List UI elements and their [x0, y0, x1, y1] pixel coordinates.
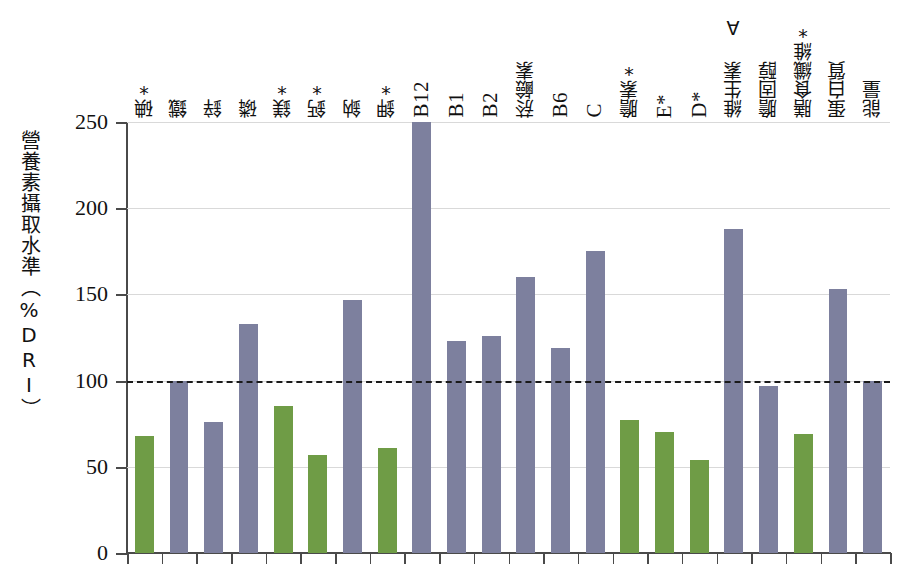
x-tick-mark — [439, 553, 441, 564]
gridline — [127, 122, 890, 123]
x-axis-label: 菸鹼素 — [509, 61, 544, 118]
x-tick-mark — [370, 553, 372, 564]
y-tick-label: 0 — [56, 540, 108, 566]
x-axis-label-text: 碘* — [135, 77, 154, 118]
y-axis-line — [126, 122, 128, 554]
x-axis-label: B1 — [439, 92, 474, 118]
x-axis-label: 膳食纖維* — [786, 20, 821, 118]
bar — [516, 277, 535, 553]
dri-reference-line-100 — [127, 381, 890, 383]
x-axis-label: 鋅 — [196, 99, 231, 118]
bar — [204, 422, 223, 553]
x-axis-label-text: B6 — [550, 92, 571, 118]
bar — [551, 348, 570, 553]
x-axis-label: 維生素 A — [717, 17, 752, 118]
x-axis-label: 碘* — [127, 77, 162, 118]
x-tick-mark — [578, 553, 580, 564]
x-axis-label: 膽固醇 — [751, 61, 786, 118]
x-axis-label-text: C — [584, 103, 605, 118]
x-tick-mark — [335, 553, 337, 564]
x-tick-mark — [613, 553, 615, 564]
y-axis-title: 營養素攝取水準（%DRI） — [6, 130, 52, 460]
y-tick-label: 100 — [56, 368, 108, 394]
x-axis-label: 鈉 — [335, 99, 370, 118]
x-axis-category-labels: 碘*鐵鋅磷鎂*鈣*鈉鉀*B12B1B2菸鹼素B6C膽素*E*D*維生素 A膽固醇… — [127, 0, 890, 122]
bar — [170, 381, 189, 553]
bar — [690, 460, 709, 553]
bar — [447, 341, 466, 553]
bar — [482, 336, 501, 553]
x-axis-label-text: 鎂* — [273, 77, 292, 118]
x-axis-label-text: 蛋白質 — [828, 61, 847, 118]
y-axis-title-text: 營養素攝取水準（%DRI） — [19, 130, 39, 419]
x-tick-mark — [821, 553, 823, 564]
bar — [759, 386, 778, 553]
bar — [829, 289, 848, 553]
y-tick-mark — [116, 467, 127, 469]
bar — [239, 324, 258, 553]
y-tick-mark — [116, 208, 127, 210]
x-axis-label-text: 菸鹼素 — [516, 61, 535, 118]
x-tick-mark — [231, 553, 233, 564]
x-axis-label-text: 鉀* — [377, 77, 396, 118]
x-axis-label-text: E* — [654, 94, 675, 118]
x-tick-mark — [682, 553, 684, 564]
x-tick-mark — [404, 553, 406, 564]
bar — [794, 434, 813, 553]
x-tick-mark — [474, 553, 476, 564]
x-axis-label: 磷 — [231, 99, 266, 118]
x-tick-mark — [717, 553, 719, 564]
bar — [620, 420, 639, 553]
bar — [378, 448, 397, 553]
x-axis-label: C — [578, 103, 613, 118]
x-axis-label-text: B1 — [446, 92, 467, 118]
x-axis-label: 鐵 — [162, 99, 197, 118]
x-axis-label-text: 鋅 — [204, 99, 223, 118]
bar — [343, 300, 362, 553]
x-axis-label-text: 維生素 A — [724, 17, 743, 118]
x-tick-mark — [855, 553, 857, 564]
x-axis-label-text: 膽固醇 — [759, 61, 778, 118]
y-axis-tick-labels: 050100150200250 — [48, 0, 108, 576]
x-axis-label: 鎂* — [266, 77, 301, 118]
x-tick-mark — [300, 553, 302, 564]
x-tick-mark — [751, 553, 753, 564]
x-axis-label: 鈣* — [300, 77, 335, 118]
y-tick-label: 150 — [56, 281, 108, 307]
bar — [586, 251, 605, 553]
y-tick-mark — [116, 381, 127, 383]
x-axis-label-text: D* — [689, 91, 710, 118]
x-axis-label: 膽素* — [613, 58, 648, 118]
x-axis-label-text: B12 — [411, 81, 432, 118]
x-tick-mark — [196, 553, 198, 564]
x-tick-mark — [647, 553, 649, 564]
x-axis-label: B12 — [404, 81, 439, 118]
y-tick-mark — [116, 294, 127, 296]
x-axis-label: B2 — [474, 92, 509, 118]
nutrient-intake-bar-chart: 營養素攝取水準（%DRI） 050100150200250 碘*鐵鋅磷鎂*鈣*鈉… — [0, 0, 898, 576]
x-tick-mark — [890, 553, 892, 564]
x-axis-label-text: 膳食纖維* — [794, 20, 813, 118]
x-axis-label-text: 鐵 — [169, 99, 188, 118]
x-axis-label-text: 鈣* — [308, 77, 327, 118]
bar — [863, 381, 882, 553]
x-axis-label-text: 磷 — [239, 99, 258, 118]
x-tick-mark — [543, 553, 545, 564]
x-axis-label: 能量 — [855, 80, 890, 118]
x-axis-label-text: 能量 — [863, 80, 882, 118]
plot-area — [127, 122, 890, 553]
x-axis-label-text: 膽素* — [620, 58, 639, 118]
gridline — [127, 294, 890, 295]
bar — [412, 122, 431, 553]
x-axis-label: D* — [682, 91, 717, 118]
x-tick-mark — [786, 553, 788, 564]
bar — [655, 432, 674, 553]
x-tick-mark — [509, 553, 511, 564]
y-tick-mark — [116, 122, 127, 124]
x-tick-mark — [266, 553, 268, 564]
bar — [724, 229, 743, 553]
y-tick-label: 250 — [56, 109, 108, 135]
x-tick-mark — [162, 553, 164, 564]
x-tick-mark — [127, 553, 129, 564]
bar — [135, 436, 154, 553]
